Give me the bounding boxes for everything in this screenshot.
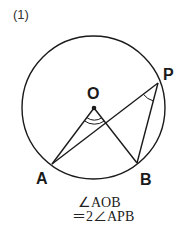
angle-mark-APB: [143, 94, 153, 101]
label-A: A: [36, 171, 48, 187]
center-dot: [92, 106, 97, 111]
segment-PA: [52, 83, 158, 164]
formula: ∠AOB ＝2∠APB: [76, 196, 134, 224]
angle-mark-AOB-inner: [87, 118, 102, 121]
angle-mark-AOB-outer: [84, 121, 104, 124]
label-O: O: [87, 86, 99, 102]
segment-PB: [137, 83, 158, 163]
formula-line-1: ∠AOB: [76, 196, 134, 210]
label-P: P: [163, 67, 174, 83]
formula-line-2: ＝2∠APB: [72, 210, 134, 224]
label-B: B: [140, 172, 152, 188]
